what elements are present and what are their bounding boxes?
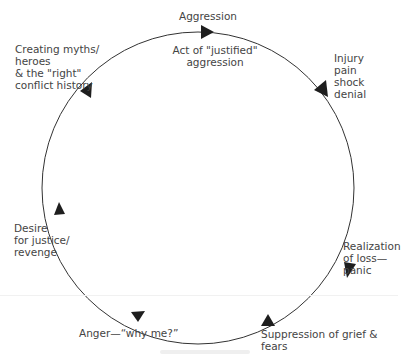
arrow-top-icon xyxy=(201,25,214,39)
stage-injury: Injury pain shock denial xyxy=(334,52,394,100)
divider xyxy=(0,295,398,296)
stage-suppression: Suppression of grief & fears xyxy=(261,328,401,352)
stage-act-of-justified-aggression: Act of "justified" aggression xyxy=(160,44,270,68)
stage-myths: Creating myths/ heroes & the "right" con… xyxy=(15,43,105,91)
faint-caption xyxy=(160,350,250,354)
stage-anger: Anger—“why me?” xyxy=(79,327,179,339)
stage-realization: Realization of loss— panic xyxy=(343,240,403,276)
stage-aggression: Aggression xyxy=(168,10,248,22)
stage-desire: Desire for justice/ revenge xyxy=(14,222,84,258)
arrow-left-icon xyxy=(54,202,65,215)
arrow-upper-right-icon xyxy=(314,80,328,97)
arrow-lower-right-icon xyxy=(261,314,275,326)
arrow-lower-left-icon xyxy=(131,311,145,322)
